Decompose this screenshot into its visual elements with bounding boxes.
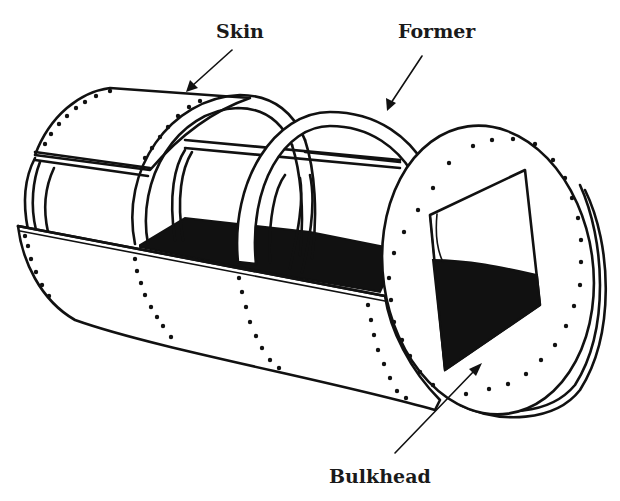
former-arrow-icon: [386, 98, 396, 111]
upper-skin-panel: [35, 88, 250, 176]
bulkhead-label: Bulkhead: [329, 465, 431, 487]
fuselage-illustration: [0, 0, 620, 501]
skin-label: Skin: [216, 20, 264, 42]
former-label: Former: [398, 20, 475, 42]
fuselage-diagram: Skin Former Bulkhead: [0, 0, 620, 501]
